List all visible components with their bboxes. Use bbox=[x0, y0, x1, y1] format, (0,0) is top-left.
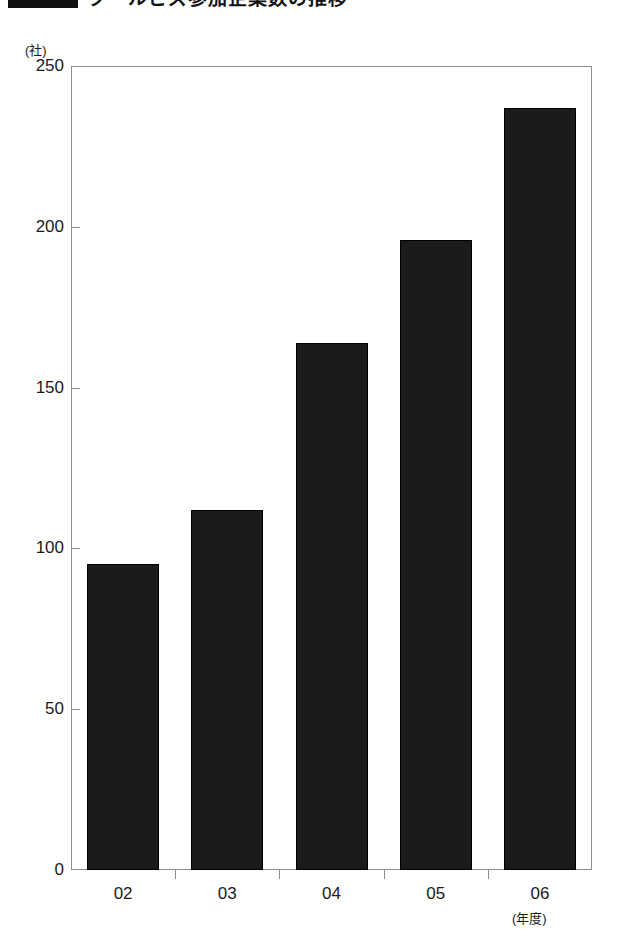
bar-05 bbox=[400, 240, 472, 870]
bar-03 bbox=[191, 510, 263, 870]
y-axis-tick-label: 250 bbox=[0, 56, 64, 76]
x-axis-tick-mark bbox=[279, 870, 280, 879]
y-axis-tick-mark bbox=[71, 709, 80, 710]
y-axis-tick-mark bbox=[71, 388, 80, 389]
y-axis-tick-label: 50 bbox=[0, 699, 64, 719]
bar-04 bbox=[296, 343, 368, 870]
y-axis-tick-label: 150 bbox=[0, 378, 64, 398]
x-axis-tick-label: 03 bbox=[182, 884, 272, 904]
bar-06 bbox=[504, 108, 576, 870]
x-axis-title: (年度) bbox=[512, 908, 547, 927]
x-axis-tick-mark bbox=[488, 870, 489, 879]
x-axis-tick-mark bbox=[384, 870, 385, 879]
bar-02 bbox=[87, 564, 159, 870]
plot-area bbox=[71, 66, 592, 870]
y-axis-tick-label: 200 bbox=[0, 217, 64, 237]
bar-chart: (社) (年度) 0501001502002500203040506 bbox=[0, 0, 629, 938]
x-axis-tick-label: 05 bbox=[391, 884, 481, 904]
x-axis-tick-label: 04 bbox=[287, 884, 377, 904]
y-axis-tick-label: 100 bbox=[0, 538, 64, 558]
x-axis-tick-label: 06 bbox=[495, 884, 585, 904]
y-axis-tick-mark bbox=[71, 548, 80, 549]
x-axis-tick-mark bbox=[175, 870, 176, 879]
y-axis-tick-mark bbox=[71, 227, 80, 228]
x-axis-tick-label: 02 bbox=[78, 884, 168, 904]
y-axis-tick-label: 0 bbox=[0, 860, 64, 880]
